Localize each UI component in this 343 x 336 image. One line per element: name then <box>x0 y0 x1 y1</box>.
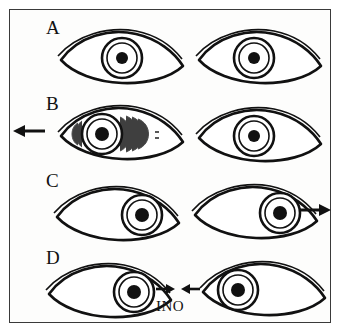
figure-frame: A <box>9 9 331 323</box>
figure-row-c: C <box>10 169 332 245</box>
row-c-right-arrow-icon <box>298 201 332 219</box>
row-d-converge-arrow-right-icon <box>180 282 200 296</box>
row-b-left-arrow-icon <box>12 122 46 140</box>
row-label-b: B <box>46 94 59 113</box>
figure-row-b: B <box>10 92 332 168</box>
row-a-left-eye <box>58 26 186 88</box>
row-c-left-eye <box>54 183 182 245</box>
figure-row-a: A <box>10 14 332 90</box>
row-b-right-eye <box>196 104 324 166</box>
figure-caption: INO <box>10 298 330 315</box>
ino-eye-movement-figure: A <box>0 0 343 336</box>
row-b-left-eye <box>58 102 186 164</box>
row-d-converge-arrow-left-icon <box>156 282 176 296</box>
row-a-right-eye <box>196 26 324 88</box>
